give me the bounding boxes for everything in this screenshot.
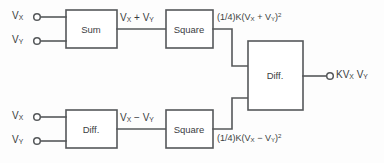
block-label-diff-right: Diff. bbox=[245, 71, 305, 81]
out-v1-sub: X bbox=[349, 73, 354, 80]
diff-out-v2-sub: Y bbox=[149, 116, 154, 123]
sq-bot-v1-sub: X bbox=[251, 136, 255, 143]
terminal-input-bottom-x bbox=[34, 114, 41, 121]
input-label-top-x-base: V bbox=[12, 10, 19, 21]
block-label-diff-left: Diff. bbox=[61, 125, 121, 135]
output-label: KVX VY bbox=[336, 70, 368, 81]
input-label-bottom-x-sub: X bbox=[19, 114, 24, 121]
diff-out-op: − bbox=[134, 112, 140, 123]
terminal-input-top-y bbox=[34, 38, 41, 45]
signal-label-sum-out: VX + VY bbox=[120, 13, 154, 24]
block-label-square-top: Square bbox=[159, 25, 219, 35]
input-label-top-y-sub: Y bbox=[19, 38, 24, 45]
input-label-top-x-sub: X bbox=[19, 14, 24, 21]
input-label-bottom-y-base: V bbox=[12, 134, 19, 145]
signal-label-diff-out: VX − VY bbox=[120, 113, 154, 124]
input-label-bottom-x-base: V bbox=[12, 110, 19, 121]
wire-square-top-to-diff bbox=[213, 29, 248, 66]
sum-out-v2-sub: Y bbox=[149, 16, 154, 23]
sq-bot-op: − bbox=[257, 133, 262, 143]
input-label-bottom-y: VY bbox=[12, 135, 23, 146]
signal-label-square-bottom-out: (1/4)K(VX − VY)2 bbox=[217, 133, 281, 143]
terminal-input-bottom-y bbox=[34, 138, 41, 145]
sum-out-v1: V bbox=[120, 12, 127, 23]
signal-label-square-top-out: (1/4)K(VX + VY)2 bbox=[217, 12, 281, 22]
sum-out-op: + bbox=[134, 12, 140, 23]
sq-bot-coef: (1/4)K( bbox=[217, 133, 245, 143]
input-label-bottom-y-sub: Y bbox=[19, 138, 24, 145]
out-coef: K bbox=[336, 69, 343, 80]
diff-out-v1-sub: X bbox=[127, 116, 132, 123]
block-label-sum: Sum bbox=[61, 25, 121, 35]
sq-top-v1-sub: X bbox=[251, 15, 255, 22]
sq-top-op: + bbox=[257, 12, 262, 22]
diff-out-v1: V bbox=[120, 112, 127, 123]
terminal-output bbox=[327, 73, 334, 80]
block-diagram: Sum Square Diff. Square Diff. VX VY VX V… bbox=[0, 0, 384, 163]
sq-top-coef: (1/4)K( bbox=[217, 12, 245, 22]
terminal-input-top-x bbox=[34, 14, 41, 21]
input-label-bottom-x: VX bbox=[12, 111, 23, 122]
input-label-top-y-base: V bbox=[12, 34, 19, 45]
input-label-top-x: VX bbox=[12, 11, 23, 22]
input-label-top-y: VY bbox=[12, 35, 23, 46]
sq-top-exp: 2 bbox=[278, 11, 281, 18]
block-label-square-bottom: Square bbox=[159, 125, 219, 135]
sq-bot-exp: 2 bbox=[278, 132, 281, 139]
out-v2-sub: Y bbox=[363, 73, 368, 80]
sum-out-v1-sub: X bbox=[127, 16, 132, 23]
